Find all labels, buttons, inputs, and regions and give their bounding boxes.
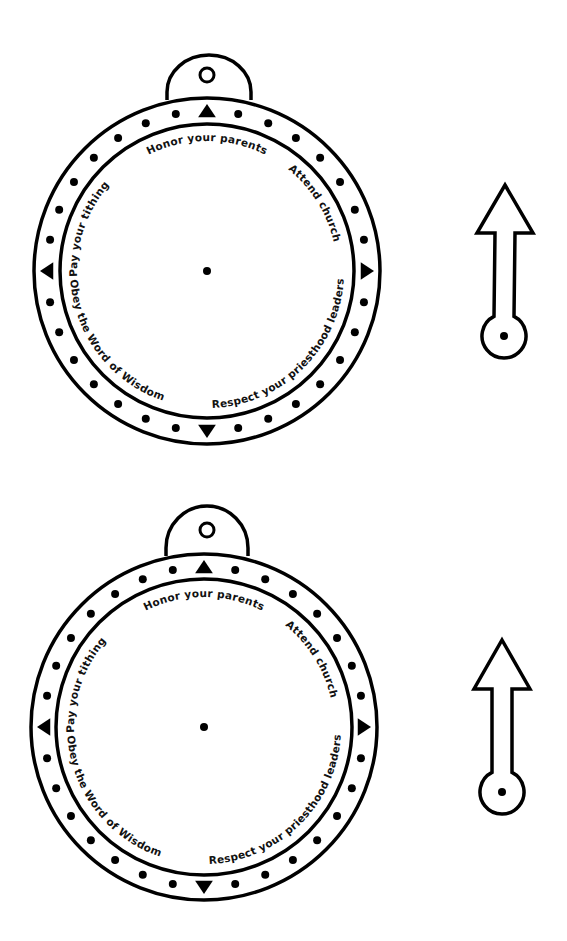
ring-dot <box>111 590 119 598</box>
ring-dot <box>351 206 359 214</box>
ring-dot <box>142 119 150 127</box>
ring-dot <box>292 134 300 142</box>
ring-dot <box>234 424 242 432</box>
ring-dot <box>351 328 359 336</box>
hanging-hole-icon <box>200 523 214 537</box>
pointer-pivot-dot <box>498 788 506 796</box>
ring-dot <box>357 692 365 700</box>
arrow-pointer-bottom <box>474 640 530 814</box>
ring-dot <box>87 836 95 844</box>
choice-wheel-bottom: Honor your parentsAttend churchPay your … <box>31 506 377 900</box>
center-pivot-dot <box>200 723 208 731</box>
ring-dot <box>52 662 60 670</box>
ring-dot <box>169 880 177 888</box>
ring-dot <box>70 356 78 364</box>
ring-dot <box>172 424 180 432</box>
ring-dot <box>87 610 95 618</box>
printable-wheel-sheet: Honor your parentsAttend churchPay your … <box>0 0 567 941</box>
arrow-pointer-shape <box>477 185 533 358</box>
ring-dot <box>348 662 356 670</box>
ring-dot <box>261 575 269 583</box>
ring-dot <box>336 356 344 364</box>
ring-dot <box>172 110 180 118</box>
ring-dot <box>313 610 321 618</box>
ring-dot <box>231 880 239 888</box>
ring-dot <box>139 575 147 583</box>
ring-dot <box>46 236 54 244</box>
ring-dot <box>70 178 78 186</box>
ring-dot <box>289 590 297 598</box>
ring-dot <box>234 110 242 118</box>
pointer-pivot-dot <box>500 332 508 340</box>
ring-dot <box>333 634 341 642</box>
ring-dot <box>111 856 119 864</box>
center-pivot-dot <box>203 267 211 275</box>
ring-dot <box>348 784 356 792</box>
ring-dot <box>336 178 344 186</box>
arrow-pointer-shape <box>474 640 530 814</box>
ring-dot <box>169 566 177 574</box>
ring-dot <box>360 236 368 244</box>
ring-dot <box>142 415 150 423</box>
ring-dot <box>261 871 269 879</box>
ring-dot <box>313 836 321 844</box>
hanging-hole-icon <box>200 68 214 82</box>
ring-dot <box>316 154 324 162</box>
ring-dot <box>67 812 75 820</box>
ring-dot <box>292 400 300 408</box>
ring-dot <box>55 206 63 214</box>
ring-dot <box>114 134 122 142</box>
ring-dot <box>316 380 324 388</box>
ring-dot <box>357 754 365 762</box>
ring-dot <box>114 400 122 408</box>
ring-dot <box>360 298 368 306</box>
ring-dot <box>264 119 272 127</box>
ring-dot <box>43 692 51 700</box>
ring-dot <box>139 871 147 879</box>
ring-dot <box>52 784 60 792</box>
ring-dot <box>289 856 297 864</box>
ring-dot <box>55 328 63 336</box>
choice-wheel-top: Honor your parentsAttend churchPay your … <box>34 55 380 444</box>
ring-dot <box>46 298 54 306</box>
ring-dot <box>333 812 341 820</box>
ring-dot <box>231 566 239 574</box>
ring-dot <box>90 380 98 388</box>
ring-dot <box>43 754 51 762</box>
ring-dot <box>90 154 98 162</box>
arrow-pointer-top <box>477 185 533 358</box>
ring-dot <box>67 634 75 642</box>
ring-dot <box>264 415 272 423</box>
